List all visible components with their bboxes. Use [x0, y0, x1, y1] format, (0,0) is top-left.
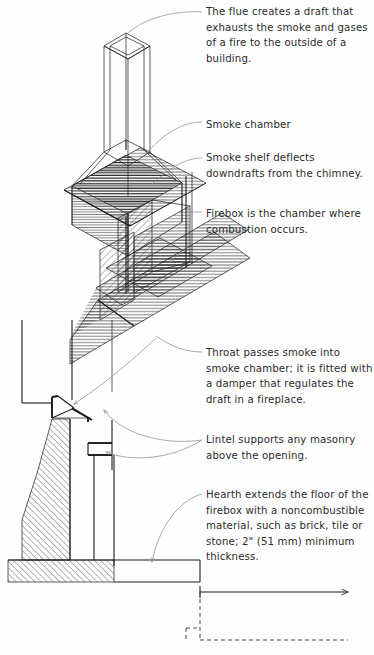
annotation-flue: The flue creates a draft that exhausts t…	[206, 4, 372, 66]
annotation-lintel: Lintel supports any masonry above the op…	[206, 432, 374, 463]
firebox-opening-edges	[94, 455, 114, 566]
masonry-wall-hatched	[22, 419, 70, 560]
annotation-firebox: Firebox is the chamber where combustion …	[206, 206, 374, 237]
annotation-hearth: Hearth extends the floor of the firebox …	[206, 487, 374, 565]
diagram-canvas: The flue creates a draft that exhausts t…	[0, 0, 374, 655]
annotation-throat: Throat passes smoke into smoke chamber; …	[206, 345, 374, 407]
hearth-slab	[8, 560, 348, 598]
flue-column	[104, 33, 150, 166]
annotation-smoke-chamber: Smoke chamber	[206, 117, 372, 133]
floor-framing-dashed	[186, 592, 348, 640]
annotation-smoke-shelf: Smoke shelf deflects downdrafts from the…	[206, 150, 374, 181]
